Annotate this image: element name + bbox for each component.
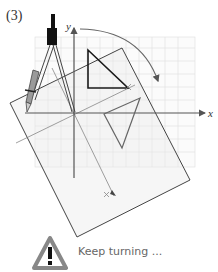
note-text: Keep turning ... [78,245,162,258]
warning-icon [32,236,68,270]
y-axis-label: y [65,20,71,32]
rotation-diagram: x y [0,0,218,240]
x-axis-label: x [207,107,213,119]
note-callout: Keep turning ... [30,236,210,270]
